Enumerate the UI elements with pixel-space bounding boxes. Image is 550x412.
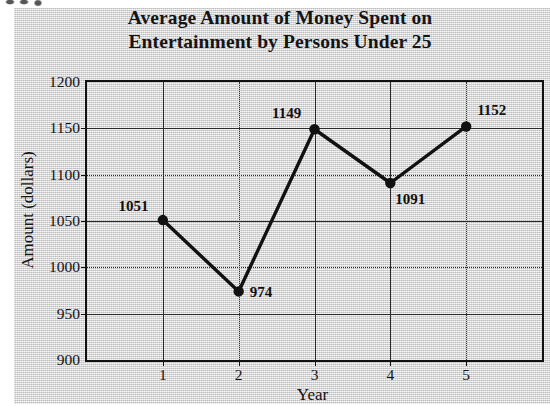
y-tick-label: 1000 (49, 258, 80, 276)
data-point-label: 1152 (477, 102, 506, 119)
data-point-marker (233, 286, 243, 296)
y-tick-label: 900 (57, 351, 80, 369)
data-point-marker (461, 121, 471, 131)
y-tick-label: 1150 (50, 119, 80, 137)
y-axis-label: Amount (dollars) (18, 100, 38, 320)
x-tick-label: 1 (159, 366, 167, 384)
y-tick-label: 950 (57, 304, 80, 322)
chart-title-line-1: Average Amount of Money Spent on (30, 6, 530, 30)
x-tick-mark (239, 360, 240, 366)
x-tick-label: 4 (386, 366, 394, 384)
x-tick-mark (315, 360, 316, 366)
series-polyline (163, 126, 466, 291)
x-tick-mark (163, 360, 164, 366)
x-tick-label: 2 (235, 366, 243, 384)
data-point-label: 1149 (272, 105, 301, 122)
x-tick-mark (466, 360, 467, 366)
data-point-label: 974 (250, 284, 273, 301)
data-point-marker (158, 215, 168, 225)
y-tick-label: 1200 (49, 73, 80, 91)
chart-title: Average Amount of Money Spent on Enterta… (30, 6, 530, 54)
x-tick-mark (390, 360, 391, 366)
y-tick-label: 1050 (49, 212, 80, 230)
data-point-label: 1051 (118, 198, 148, 215)
series-markers (158, 121, 472, 296)
x-axis-label: Year (85, 385, 540, 405)
chart-page: Average Amount of Money Spent on Enterta… (0, 0, 550, 412)
plot-area: 12001150110010501000950900 12345 1051974… (85, 80, 544, 362)
line-series (87, 82, 542, 360)
y-tick-label: 1100 (50, 165, 80, 183)
data-point-label: 1091 (395, 191, 425, 208)
chart-title-line-2: Entertainment by Persons Under 25 (30, 30, 530, 54)
data-point-marker (309, 124, 319, 134)
x-tick-label: 5 (462, 366, 470, 384)
x-tick-label: 3 (311, 366, 319, 384)
data-point-marker (385, 178, 395, 188)
